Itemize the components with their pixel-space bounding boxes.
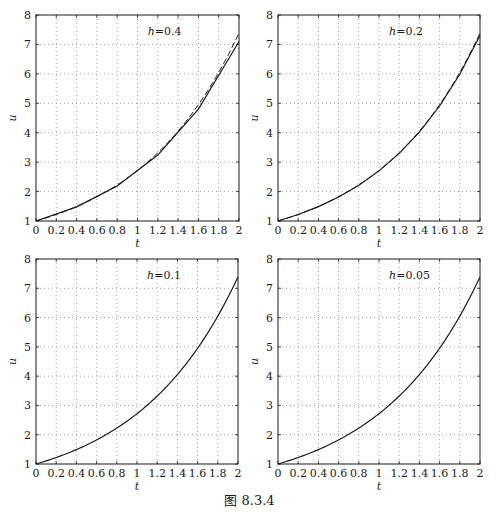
svg-text:0: 0 — [33, 467, 40, 480]
svg-text:5: 5 — [24, 97, 31, 110]
svg-text:1.6: 1.6 — [189, 467, 207, 480]
svg-text:2: 2 — [266, 186, 273, 199]
step-size-annotation: h=0.05 — [389, 269, 430, 282]
svg-text:0.2: 0.2 — [48, 224, 66, 237]
svg-text:5: 5 — [266, 341, 273, 354]
svg-text:2: 2 — [24, 186, 31, 199]
tick-labels: 00.20.40.60.811.21.41.61.8212345678 — [266, 253, 484, 480]
grid-lines — [278, 15, 480, 221]
grid-lines — [36, 15, 239, 221]
tick-labels: 00.20.40.60.811.21.41.61.8212345678 — [24, 253, 242, 480]
svg-text:7: 7 — [24, 38, 31, 51]
svg-text:8: 8 — [24, 253, 31, 266]
svg-text:1.8: 1.8 — [451, 467, 469, 480]
plot-frame — [278, 15, 480, 221]
svg-text:0.8: 0.8 — [350, 467, 368, 480]
svg-text:3: 3 — [24, 399, 31, 412]
svg-text:0: 0 — [33, 224, 40, 237]
svg-text:2: 2 — [477, 224, 484, 237]
svg-text:1: 1 — [134, 224, 141, 237]
svg-text:0.4: 0.4 — [68, 224, 86, 237]
svg-text:1.8: 1.8 — [209, 467, 227, 480]
svg-text:1: 1 — [376, 467, 383, 480]
svg-text:1.4: 1.4 — [411, 467, 429, 480]
svg-text:1.8: 1.8 — [210, 224, 228, 237]
tick-marks — [36, 15, 239, 221]
svg-text:1.2: 1.2 — [390, 224, 408, 237]
svg-text:8: 8 — [266, 253, 273, 266]
svg-text:2: 2 — [477, 467, 484, 480]
svg-text:3: 3 — [266, 156, 273, 169]
svg-text:7: 7 — [24, 282, 31, 295]
plot-frame — [36, 15, 239, 221]
svg-text:0.8: 0.8 — [108, 467, 126, 480]
tick-marks — [36, 259, 238, 464]
svg-text:7: 7 — [266, 38, 273, 51]
svg-text:6: 6 — [24, 312, 31, 325]
svg-text:0.2: 0.2 — [289, 467, 307, 480]
plot-frame — [278, 259, 480, 464]
svg-text:1.8: 1.8 — [451, 224, 469, 237]
svg-text:0.6: 0.6 — [330, 467, 348, 480]
step-size-annotation: h=0.4 — [148, 25, 182, 38]
svg-text:8: 8 — [266, 9, 273, 22]
svg-text:0.6: 0.6 — [88, 467, 106, 480]
svg-text:2: 2 — [236, 224, 243, 237]
panel-h-0-2: 00.20.40.60.811.21.41.61.8212345678tuh=0… — [248, 9, 484, 250]
svg-text:1.2: 1.2 — [390, 467, 408, 480]
svg-text:0.2: 0.2 — [47, 467, 65, 480]
svg-text:0.2: 0.2 — [289, 224, 307, 237]
panel-h-0-1: 00.20.40.60.811.21.41.61.8212345678tuh=0… — [6, 253, 242, 493]
y-axis-label: u — [6, 358, 19, 365]
svg-text:4: 4 — [24, 370, 31, 383]
svg-text:0.6: 0.6 — [330, 224, 348, 237]
svg-text:4: 4 — [266, 370, 273, 383]
svg-text:6: 6 — [24, 68, 31, 81]
grid-lines — [278, 259, 480, 464]
svg-text:0.4: 0.4 — [68, 467, 86, 480]
svg-text:0.8: 0.8 — [350, 224, 368, 237]
figure-grid: 00.20.40.60.811.21.41.61.8212345678tuh=0… — [0, 0, 499, 512]
svg-text:1: 1 — [376, 224, 383, 237]
svg-text:1: 1 — [266, 458, 273, 471]
svg-text:2: 2 — [235, 467, 242, 480]
svg-text:6: 6 — [266, 312, 273, 325]
svg-text:2: 2 — [266, 429, 273, 442]
step-size-annotation: h=0.1 — [147, 269, 181, 282]
y-axis-label: u — [248, 358, 261, 365]
svg-text:1: 1 — [24, 458, 31, 471]
figure-caption: 图 8.3.4 — [0, 490, 499, 509]
svg-text:1.2: 1.2 — [148, 467, 166, 480]
svg-text:3: 3 — [24, 156, 31, 169]
svg-text:4: 4 — [24, 127, 31, 140]
svg-text:5: 5 — [24, 341, 31, 354]
svg-text:6: 6 — [266, 68, 273, 81]
svg-text:0.4: 0.4 — [310, 467, 328, 480]
svg-text:3: 3 — [266, 399, 273, 412]
svg-text:8: 8 — [24, 9, 31, 22]
svg-text:4: 4 — [266, 127, 273, 140]
grid-lines — [36, 259, 238, 464]
tick-labels: 00.20.40.60.811.21.41.61.8212345678 — [24, 9, 243, 237]
tick-marks — [278, 15, 480, 221]
svg-text:1.6: 1.6 — [431, 467, 449, 480]
exact-solution-curve — [278, 33, 480, 221]
svg-text:2: 2 — [24, 429, 31, 442]
exact-solution-curve — [36, 33, 239, 221]
svg-text:1: 1 — [134, 467, 141, 480]
svg-text:1.2: 1.2 — [149, 224, 167, 237]
svg-text:0.8: 0.8 — [108, 224, 126, 237]
panel-h-0-4: 00.20.40.60.811.21.41.61.8212345678tuh=0… — [6, 9, 243, 250]
svg-text:1.4: 1.4 — [169, 467, 187, 480]
svg-text:1.6: 1.6 — [190, 224, 208, 237]
svg-text:5: 5 — [266, 97, 273, 110]
tick-labels: 00.20.40.60.811.21.41.61.8212345678 — [266, 9, 484, 237]
svg-text:0: 0 — [275, 224, 282, 237]
y-axis-label: u — [248, 114, 261, 121]
x-axis-label: t — [377, 237, 382, 250]
svg-text:0.6: 0.6 — [88, 224, 106, 237]
svg-text:0.4: 0.4 — [310, 224, 328, 237]
step-size-annotation: h=0.2 — [389, 25, 423, 38]
svg-text:1: 1 — [266, 215, 273, 228]
svg-text:0: 0 — [275, 467, 282, 480]
